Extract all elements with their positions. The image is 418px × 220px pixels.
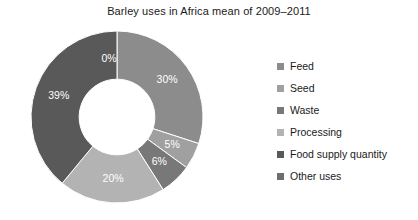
- legend-item-label: Waste: [290, 105, 319, 116]
- legend-item[interactable]: Seed: [277, 77, 417, 99]
- pie-slice[interactable]: [117, 31, 203, 144]
- donut-svg: 30%5%6%20%39%0%: [30, 30, 204, 204]
- legend-item[interactable]: Feed: [277, 55, 417, 77]
- legend-item-label: Other uses: [290, 171, 341, 182]
- slice-data-label: 30%: [157, 73, 178, 85]
- legend-swatch-icon: [277, 63, 284, 70]
- legend-item-label: Seed: [290, 83, 315, 94]
- legend-item-label: Feed: [290, 61, 314, 72]
- legend-item[interactable]: Other uses: [277, 165, 417, 187]
- slice-data-label: 5%: [165, 138, 180, 150]
- chart-title: Barley uses in Africa mean of 2009–2011: [0, 5, 418, 17]
- slice-data-label: 6%: [152, 155, 167, 167]
- legend-swatch-icon: [277, 151, 284, 158]
- chart-container: Barley uses in Africa mean of 2009–2011 …: [0, 0, 418, 220]
- legend-item-label: Food supply quantity: [290, 149, 387, 160]
- legend-item-label: Processing: [290, 127, 342, 138]
- legend-swatch-icon: [277, 129, 284, 136]
- slice-data-label: 0%: [101, 52, 116, 64]
- legend-item[interactable]: Food supply quantity: [277, 143, 417, 165]
- legend-item[interactable]: Processing: [277, 121, 417, 143]
- chart-legend: FeedSeedWasteProcessingFood supply quant…: [277, 55, 417, 187]
- slice-data-label: 39%: [48, 89, 69, 101]
- legend-swatch-icon: [277, 85, 284, 92]
- legend-swatch-icon: [277, 173, 284, 180]
- legend-swatch-icon: [277, 107, 284, 114]
- legend-item[interactable]: Waste: [277, 99, 417, 121]
- donut-chart: 30%5%6%20%39%0%: [30, 30, 204, 204]
- slice-data-label: 20%: [103, 172, 124, 184]
